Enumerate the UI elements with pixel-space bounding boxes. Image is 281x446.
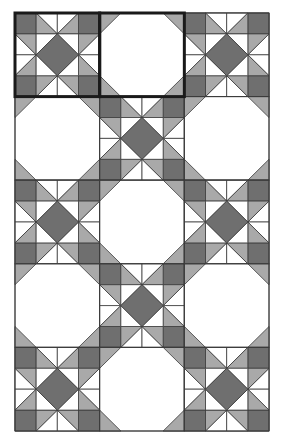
corner-square: [184, 410, 205, 431]
corner-square: [248, 243, 269, 264]
corner-square: [79, 180, 100, 201]
corner-square: [184, 13, 205, 34]
corner-square: [248, 410, 269, 431]
plain-block: [100, 180, 185, 264]
corner-square: [79, 243, 100, 264]
corner-square: [79, 13, 100, 34]
corner-square: [163, 264, 184, 285]
corner-square: [100, 327, 121, 348]
corner-square: [184, 243, 205, 264]
corner-square: [100, 97, 121, 118]
corner-square: [248, 180, 269, 201]
quilt-canvas: [0, 0, 281, 446]
corner-square: [15, 13, 36, 34]
corner-square: [248, 13, 269, 34]
plain-block: [184, 264, 269, 348]
corner-square: [100, 264, 121, 285]
plain-block: [184, 97, 269, 181]
corner-square: [163, 97, 184, 118]
corner-square: [248, 76, 269, 97]
corner-square: [248, 347, 269, 368]
corner-square: [163, 327, 184, 348]
corner-square: [79, 347, 100, 368]
corner-square: [184, 347, 205, 368]
corner-square: [163, 159, 184, 180]
corner-square: [79, 410, 100, 431]
corner-square: [15, 76, 36, 97]
corner-square: [184, 76, 205, 97]
plain-block: [15, 264, 100, 348]
corner-square: [15, 180, 36, 201]
corner-square: [15, 347, 36, 368]
plain-block: [15, 97, 100, 181]
corner-square: [15, 243, 36, 264]
corner-square: [15, 410, 36, 431]
corner-square: [100, 159, 121, 180]
plain-block: [100, 347, 185, 431]
plain-block: [100, 13, 185, 97]
corner-square: [79, 76, 100, 97]
corner-square: [184, 180, 205, 201]
